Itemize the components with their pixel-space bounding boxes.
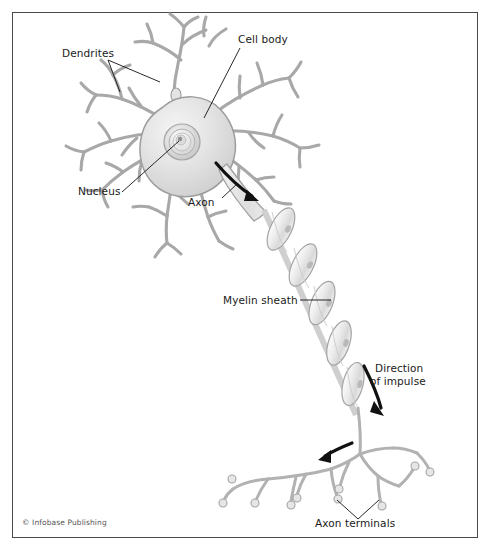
label-dendrites: Dendrites [62,47,114,60]
label-direction-of-impulse-line2: of impulse [370,375,426,388]
nucleus [164,124,200,160]
label-myelin-sheath: Myelin sheath [223,294,298,307]
label-cell-body: Cell body [238,33,288,46]
label-direction-of-impulse-line1: Direction [375,362,423,375]
neuron-illustration [0,0,493,553]
neuron-diagram-page: Dendrites Cell body Nucleus Axon Myelin … [0,0,493,553]
label-axon-terminals: Axon terminals [315,517,395,530]
myelinated-axon [261,204,368,415]
myelin-segment [304,278,341,329]
label-axon: Axon [188,196,215,209]
label-nucleus: Nucleus [78,185,121,198]
copyright-credit: © Infobase Publishing [22,518,107,527]
